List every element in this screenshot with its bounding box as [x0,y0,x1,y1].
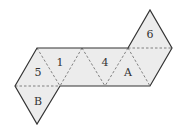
face-label-1: 1 [57,56,64,69]
face-label-5: 5 [35,66,42,79]
face-label-4: 4 [102,56,109,69]
face-label-6: 6 [147,28,154,41]
face-label-b: B [34,95,42,108]
octahedron-net-diagram: 5 1 4 A 6 B [0,0,186,136]
face-label-a: A [123,66,133,79]
